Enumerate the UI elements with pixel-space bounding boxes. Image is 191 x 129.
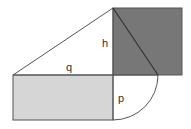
- label-p: p: [118, 92, 124, 104]
- label-h: h: [102, 37, 108, 49]
- triangle-hypotenuse-left: [13, 8, 113, 75]
- geometric-mean-diagram: h q p: [0, 0, 191, 129]
- light-rectangle-pq: [13, 75, 113, 120]
- label-q: q: [66, 61, 72, 73]
- dark-square-h-squared: [113, 8, 182, 75]
